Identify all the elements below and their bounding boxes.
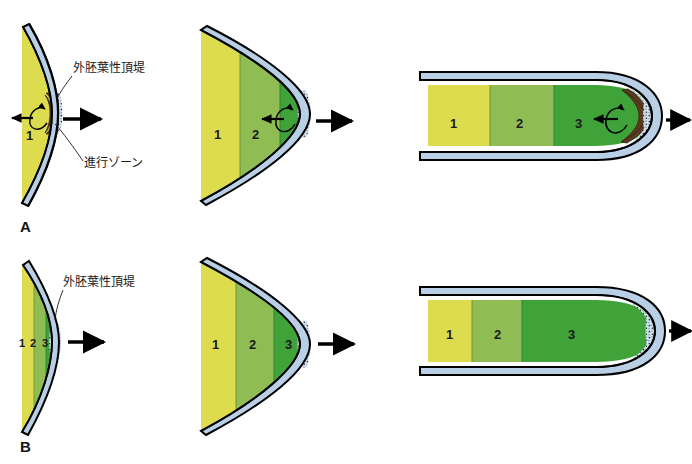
zone-label-2: 2 (249, 337, 256, 352)
aer-label-b: 外胚葉性頂堤 (63, 275, 135, 289)
zone-label-1: 1 (19, 337, 25, 349)
panel-letter-a: A (20, 218, 31, 235)
zone-label-1: 1 (214, 127, 221, 142)
zone-label-3: 3 (42, 337, 48, 349)
zone-label-3: 3 (285, 337, 292, 352)
panel-letter-b: B (20, 438, 31, 455)
zone-label-2: 2 (30, 337, 36, 349)
aer-label-a: 外胚葉性頂堤 (73, 61, 145, 75)
zone-label-3: 3 (575, 116, 582, 131)
zone-label-3: 3 (568, 327, 575, 342)
limb-bud-outgrowth-figure: 1 外胚葉性頂堤 進行ゾーン (0, 0, 692, 464)
zone-label-1: 1 (446, 327, 453, 342)
mesenchyme-zones (424, 295, 662, 367)
zone-label-2: 2 (516, 116, 523, 131)
zone-label-2: 2 (494, 327, 501, 342)
zone-label-2: 2 (252, 127, 259, 142)
zone-label-1: 1 (26, 128, 33, 143)
progress-zone-label-a: 進行ゾーン (84, 156, 143, 170)
diagram-canvas: 1 外胚葉性頂堤 進行ゾーン (0, 0, 692, 464)
zone-label-1: 1 (450, 116, 457, 131)
zone-label-1: 1 (212, 337, 219, 352)
